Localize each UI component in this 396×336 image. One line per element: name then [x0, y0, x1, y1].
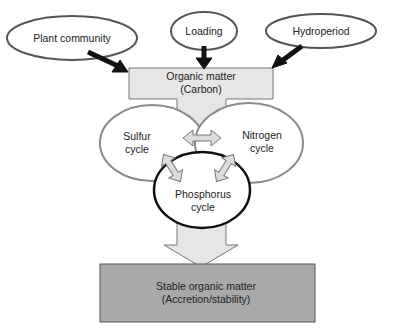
- nitrogen-cycle-label: Nitrogen cycle: [242, 129, 282, 155]
- hydroperiod-label: Hydroperiod: [292, 25, 349, 38]
- stable-organic-matter-label: Stable organic matter (Accretion/stabili…: [156, 280, 256, 306]
- plant-community-label: Plant community: [33, 32, 111, 45]
- sulfur-cycle-label: Sulfur cycle: [123, 130, 150, 156]
- phosphorus-line2: cycle: [175, 201, 231, 214]
- loading-label: Loading: [185, 25, 222, 38]
- organic-matter-line2: (Carbon): [166, 83, 235, 96]
- phosphorus-cycle-label: Phosphorus cycle: [175, 188, 231, 214]
- nitrogen-line1: Nitrogen: [242, 129, 282, 142]
- hydroperiod-arrow-icon: [283, 46, 302, 60]
- organic-matter-label: Organic matter (Carbon): [166, 70, 235, 96]
- organic-matter-line1: Organic matter: [166, 70, 235, 83]
- phosphorus-line1: Phosphorus: [175, 188, 231, 201]
- output-line1: Stable organic matter: [156, 280, 256, 293]
- nitrogen-line2: cycle: [242, 142, 282, 155]
- sulfur-line1: Sulfur: [123, 130, 150, 143]
- sulfur-line2: cycle: [123, 143, 150, 156]
- output-line2: (Accretion/stability): [156, 293, 256, 306]
